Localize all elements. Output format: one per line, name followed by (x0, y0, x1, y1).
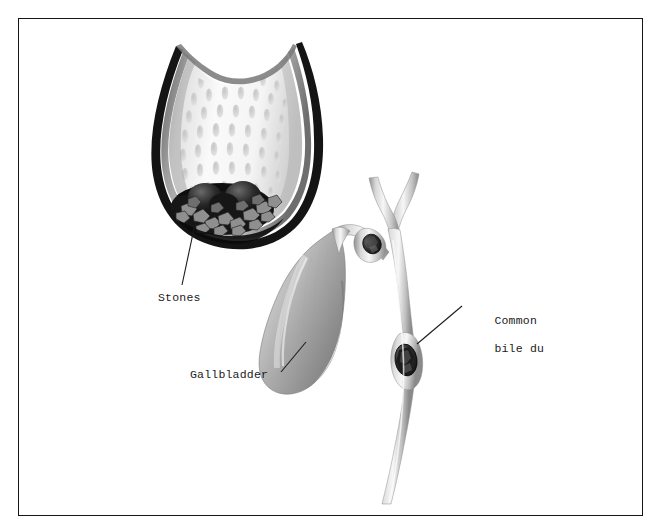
figure-root: Stones Gallbladder Common bile du Gallst… (0, 0, 663, 529)
illustration-canvas (0, 0, 663, 529)
label-common-bile-duct-line1: Common (494, 314, 537, 327)
cutaway-gallbladder-group (151, 42, 323, 249)
leader-line-common-bile-duct (417, 306, 462, 344)
left-hepatic-duct (369, 177, 399, 234)
gallbladder-body (259, 228, 345, 394)
biliary-tree-group (336, 172, 423, 504)
label-gallbladder: Gallbladder (190, 368, 268, 382)
label-stones: Stones (158, 291, 201, 305)
label-common-bile-duct: Common bile du (466, 300, 544, 370)
label-common-bile-duct-line2: bile du (494, 342, 544, 355)
intact-gallbladder-group (259, 227, 350, 394)
